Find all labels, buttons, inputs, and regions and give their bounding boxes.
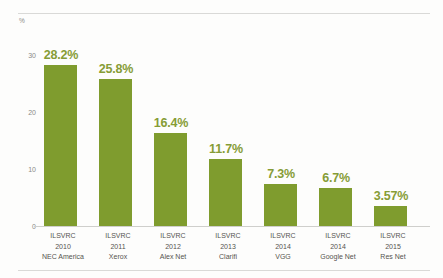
category-line-2: 2010 bbox=[32, 242, 94, 253]
bar-series: 28.2% 25.8% 16.4% 11.7% 7.3% 6.7% 3.57% bbox=[38, 0, 430, 226]
bar-ilsvrc-2015-resnet[interactable] bbox=[374, 206, 407, 226]
category-line-1: ILSVRC bbox=[32, 231, 94, 242]
bar-slot-ilsvrc-2013: 11.7% bbox=[203, 0, 258, 226]
x-axis-baseline bbox=[34, 226, 430, 227]
bar-ilsvrc-2014-vgg[interactable] bbox=[264, 184, 297, 226]
chart-figure: % 30 20 10 0 28.2% 25.8% 16.4% 11.7% 7.3… bbox=[0, 0, 443, 278]
bar-ilsvrc-2014-googlenet[interactable] bbox=[319, 188, 352, 226]
category-label-ilsvrc-2011: ILSVRC 2011 Xerox bbox=[87, 231, 149, 263]
bar-slot-ilsvrc-2014-googlenet: 6.7% bbox=[313, 0, 368, 226]
category-line-3: VGG bbox=[252, 252, 314, 263]
category-label-ilsvrc-2012: ILSVRC 2012 Alex Net bbox=[142, 231, 204, 263]
category-line-3: Clarifi bbox=[197, 252, 259, 263]
category-line-1: ILSVRC bbox=[307, 231, 369, 242]
bar-value-ilsvrc-2013: 11.7% bbox=[197, 142, 255, 156]
category-label-ilsvrc-2013: ILSVRC 2013 Clarifi bbox=[197, 231, 259, 263]
category-line-2: 2012 bbox=[142, 242, 204, 253]
bar-slot-ilsvrc-2015-resnet: 3.57% bbox=[368, 0, 423, 226]
category-line-2: 2014 bbox=[307, 242, 369, 253]
category-line-1: ILSVRC bbox=[362, 231, 424, 242]
bar-value-ilsvrc-2014-googlenet: 6.7% bbox=[307, 171, 365, 185]
y-tick-20: 20 bbox=[20, 109, 36, 116]
category-line-2: 2013 bbox=[197, 242, 259, 253]
bar-slot-ilsvrc-2011: 25.8% bbox=[93, 0, 148, 226]
bar-value-ilsvrc-2015-resnet: 3.57% bbox=[362, 189, 420, 203]
bar-value-ilsvrc-2010: 28.2% bbox=[32, 48, 90, 62]
y-tick-10: 10 bbox=[20, 166, 36, 173]
bar-ilsvrc-2012[interactable] bbox=[154, 133, 187, 226]
bar-ilsvrc-2013[interactable] bbox=[209, 159, 242, 226]
x-axis-category-labels: ILSVRC 2010 NEC America ILSVRC 2011 Xero… bbox=[38, 231, 430, 271]
bar-value-ilsvrc-2014-vgg: 7.3% bbox=[252, 167, 310, 181]
category-line-2: 2011 bbox=[87, 242, 149, 253]
category-line-3: Google Net bbox=[307, 252, 369, 263]
category-line-3: Res Net bbox=[362, 252, 424, 263]
category-line-1: ILSVRC bbox=[142, 231, 204, 242]
bar-slot-ilsvrc-2014-vgg: 7.3% bbox=[258, 0, 313, 226]
category-label-ilsvrc-2014-vgg: ILSVRC 2014 VGG bbox=[252, 231, 314, 263]
category-line-3: Alex Net bbox=[142, 252, 204, 263]
category-label-ilsvrc-2014-googlenet: ILSVRC 2014 Google Net bbox=[307, 231, 369, 263]
bar-slot-ilsvrc-2010: 28.2% bbox=[38, 0, 93, 226]
bar-ilsvrc-2011[interactable] bbox=[99, 79, 132, 226]
category-line-1: ILSVRC bbox=[252, 231, 314, 242]
bar-value-ilsvrc-2011: 25.8% bbox=[87, 62, 145, 76]
category-label-ilsvrc-2010: ILSVRC 2010 NEC America bbox=[32, 231, 94, 263]
bar-ilsvrc-2010[interactable] bbox=[44, 65, 77, 226]
bar-slot-ilsvrc-2012: 16.4% bbox=[148, 0, 203, 226]
category-line-3: NEC America bbox=[32, 252, 94, 263]
category-line-2: 2014 bbox=[252, 242, 314, 253]
bar-value-ilsvrc-2012: 16.4% bbox=[142, 116, 200, 130]
category-label-ilsvrc-2015-resnet: ILSVRC 2015 Res Net bbox=[362, 231, 424, 263]
category-line-3: Xerox bbox=[87, 252, 149, 263]
category-line-1: ILSVRC bbox=[197, 231, 259, 242]
category-line-2: 2015 bbox=[362, 242, 424, 253]
category-line-1: ILSVRC bbox=[87, 231, 149, 242]
